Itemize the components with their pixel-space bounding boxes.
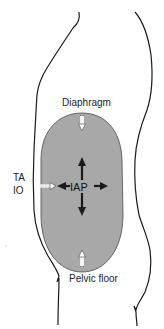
iap-label: IAP (70, 181, 88, 193)
diaphragm-label: Diaphragm (62, 97, 111, 109)
pelvic-floor-label: Pelvic floor (69, 273, 118, 285)
stray-dot (5, 245, 6, 246)
ta-label: TA (13, 172, 25, 184)
body-outline-right (134, 12, 152, 326)
io-label: IO (13, 185, 24, 197)
